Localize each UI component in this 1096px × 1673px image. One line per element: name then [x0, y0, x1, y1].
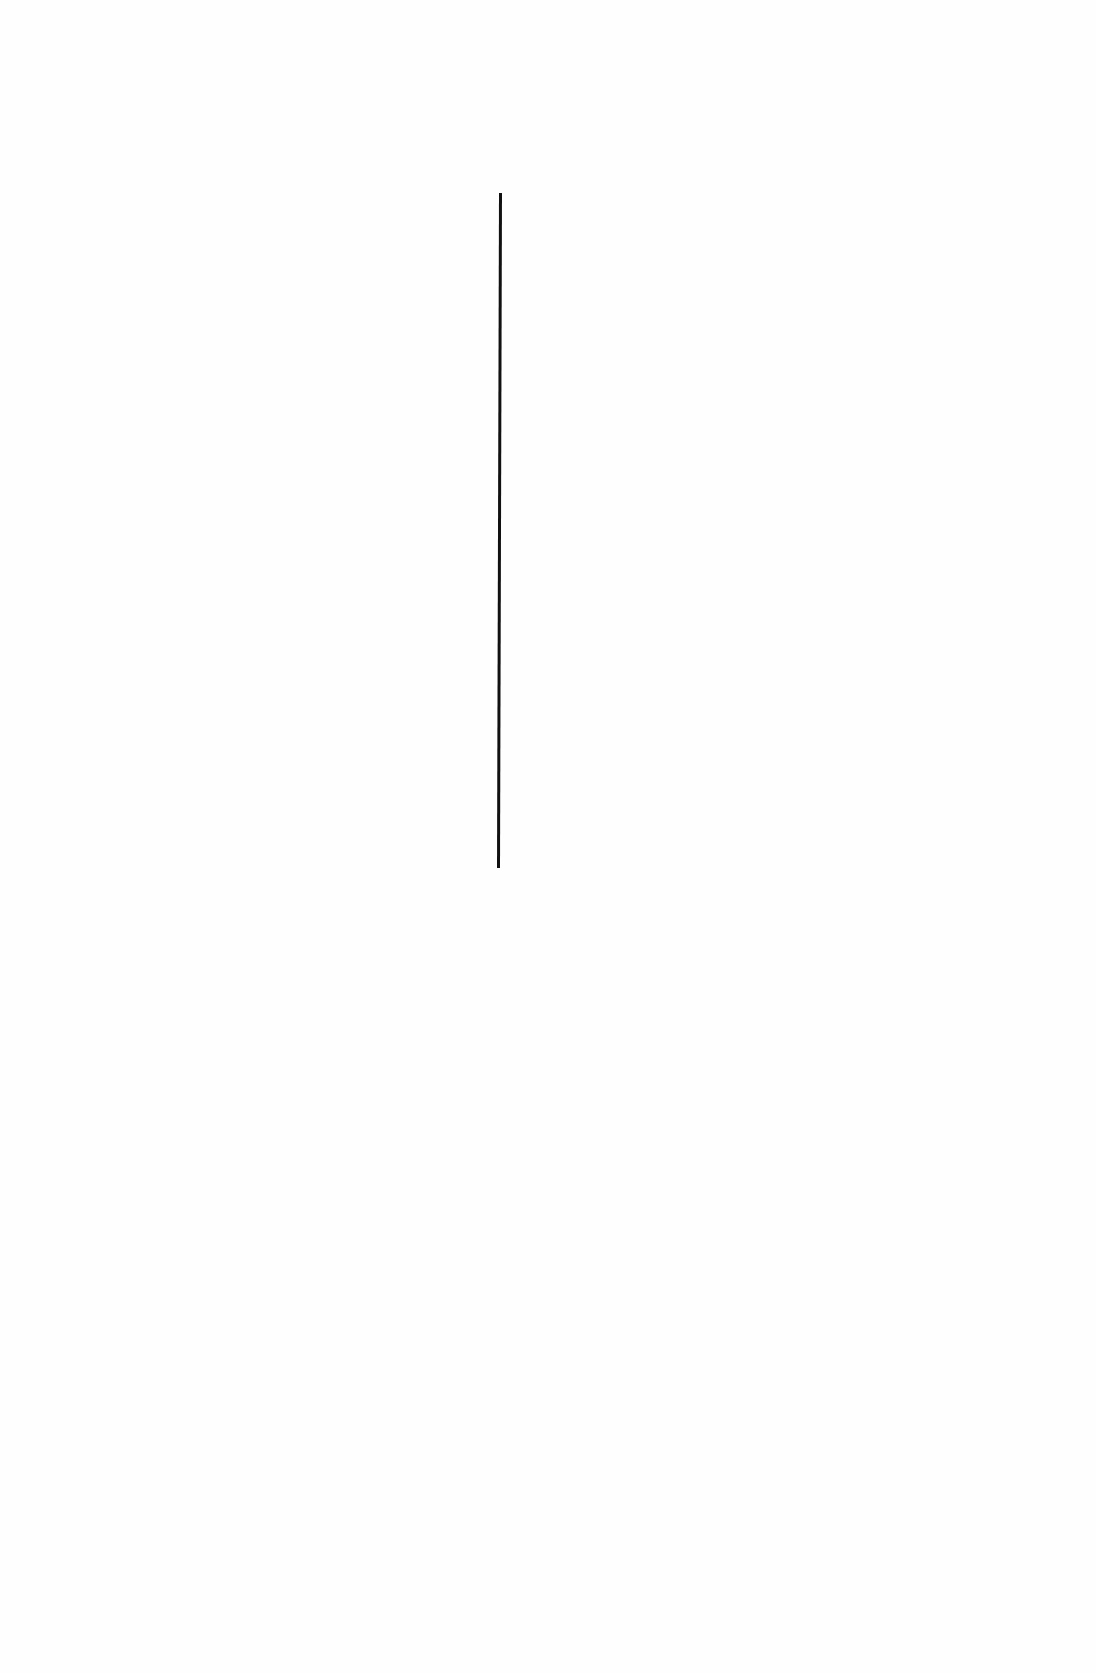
blank-document-page — [0, 0, 1096, 1673]
vertical-divider-line — [497, 193, 502, 868]
